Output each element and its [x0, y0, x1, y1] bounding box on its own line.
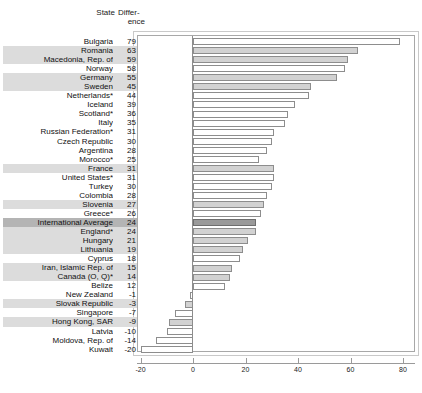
x-axis-tick — [298, 358, 299, 363]
x-axis-tick — [141, 358, 142, 363]
x-axis-tick — [351, 358, 352, 363]
x-axis-tick — [246, 358, 247, 363]
x-axis-tick — [403, 358, 404, 363]
x-axis-tick-label: 0 — [178, 365, 208, 374]
x-axis-tick-label: 80 — [388, 365, 418, 374]
x-axis-tick-label: 40 — [283, 365, 313, 374]
x-axis: -20020406080 — [0, 0, 422, 393]
x-axis-tick — [193, 358, 194, 363]
x-axis-line — [137, 363, 415, 364]
x-axis-tick-label: 60 — [336, 365, 366, 374]
bar-chart-figure: State Differ- ence Bulgaria79Romania63Ma… — [0, 0, 422, 393]
x-axis-tick-label: -20 — [126, 365, 156, 374]
x-axis-tick-label: 20 — [231, 365, 261, 374]
